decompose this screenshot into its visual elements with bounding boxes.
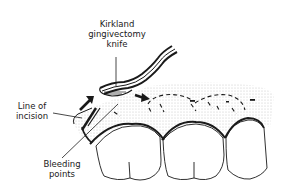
tooth-1 [96, 126, 161, 180]
bleeding-label-line-2: points [40, 169, 84, 179]
bleeding-label: Bleeding points [40, 159, 84, 179]
tooth-3 [226, 120, 267, 179]
incision-label-line-1: Line of [10, 101, 54, 111]
tooth-2 [163, 124, 224, 180]
knife-label: Kirkland gingivectomy knife [84, 19, 150, 49]
knife-label-line-1: Kirkland [84, 19, 150, 29]
knife-label-line-2: gingivectomy [84, 29, 150, 39]
gingivectomy-diagram: Kirkland gingivectomy knife Line of inci… [0, 0, 289, 194]
incision-label: Line of incision [10, 101, 54, 121]
teeth [96, 120, 267, 180]
knife-label-line-3: knife [84, 39, 150, 49]
incision-label-line-2: incision [10, 111, 54, 121]
bleeding-label-line-1: Bleeding [40, 159, 84, 169]
